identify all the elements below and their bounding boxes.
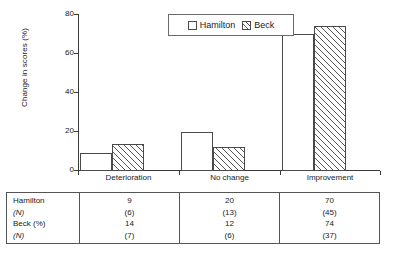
bar-hamilton-no-change <box>181 132 213 171</box>
bar-hamilton-improvement <box>282 34 314 171</box>
y-axis-title: Change in scores (%) <box>20 3 29 133</box>
x-category-no-change: No change <box>179 173 280 182</box>
y-tick-label-80: 80 <box>65 10 74 18</box>
x-category-deterioration: Deterioration <box>78 173 179 182</box>
y-tick-label-20: 20 <box>65 127 74 135</box>
table-row-label-hamilton-n: (N) <box>13 207 24 219</box>
x-category-improvement: Improvement <box>280 173 380 182</box>
x-tick-mark-3 <box>380 171 381 175</box>
table-cell: 12 <box>225 218 234 230</box>
plot-area <box>78 14 380 171</box>
table-cell: 14 <box>125 218 134 230</box>
legend-label-beck: Beck <box>254 20 274 30</box>
bar-beck-deterioration <box>112 144 144 171</box>
chart-legend: Hamilton Beck <box>168 14 294 36</box>
table-cell: (37) <box>322 230 336 242</box>
table-cell: (13) <box>222 207 236 219</box>
y-tick-label-40: 40 <box>65 88 74 96</box>
hatched-square-icon <box>242 21 251 30</box>
table-cell: (6) <box>225 230 235 242</box>
table-cell: 9 <box>127 195 131 207</box>
table-row-label-beck: Beck (%) <box>13 218 45 230</box>
table-column-improvement: 70 (45) 74 (37) <box>279 193 379 243</box>
table-row-label-hamilton: Hamilton <box>13 195 45 207</box>
table-column-no-change: 20 (13) 12 (6) <box>179 193 279 243</box>
table-cell: 74 <box>325 218 334 230</box>
table-column-deterioration: 9 (6) 14 (7) <box>79 193 179 243</box>
bar-beck-improvement <box>314 26 346 171</box>
bar-chart: Change in scores (%) 80 60 40 20 0 <box>0 0 398 182</box>
table-cell: (6) <box>125 207 135 219</box>
y-tick-label-60: 60 <box>65 49 74 57</box>
white-square-icon <box>188 21 197 30</box>
figure-root: Change in scores (%) 80 60 40 20 0 <box>0 0 398 257</box>
table-row-label-column: Hamilton (N) Beck (%) (N) <box>7 193 79 243</box>
table-row-label-beck-n: (N) <box>13 230 24 242</box>
data-table: Hamilton (N) Beck (%) (N) 9 (6) 14 (7) 2… <box>6 192 380 244</box>
table-cell: 20 <box>225 195 234 207</box>
table-cell: (45) <box>322 207 336 219</box>
legend-label-hamilton: Hamilton <box>200 20 236 30</box>
legend-item-beck: Beck <box>242 20 274 30</box>
table-cell: (7) <box>125 230 135 242</box>
bar-hamilton-deterioration <box>80 153 112 171</box>
bar-beck-no-change <box>213 147 245 171</box>
table-cell: 70 <box>325 195 334 207</box>
legend-item-hamilton: Hamilton <box>188 20 236 30</box>
